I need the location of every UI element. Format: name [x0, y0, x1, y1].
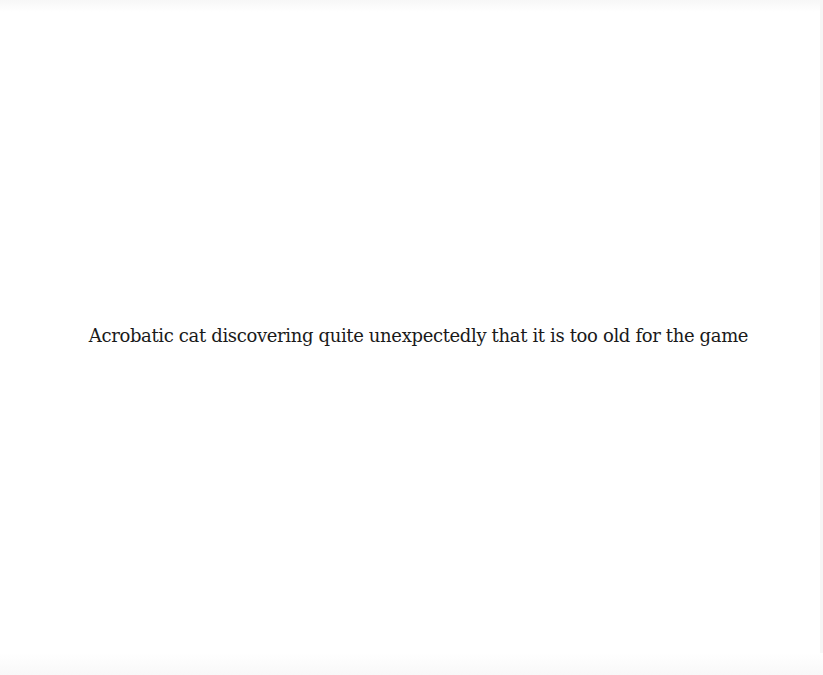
top-edge-shade	[0, 0, 823, 12]
page-canvas: Acrobatic cat discovering quite unexpect…	[0, 0, 823, 675]
caption-text: Acrobatic cat discovering quite unexpect…	[0, 322, 823, 350]
bottom-edge-shade	[0, 653, 823, 675]
